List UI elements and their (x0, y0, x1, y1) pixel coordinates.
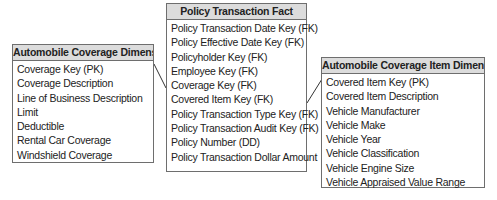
table-field: Limit (17, 105, 153, 119)
table-field: Vehicle Manufacturer (326, 104, 484, 118)
table-field: Covered Item Key (FK) (171, 92, 306, 106)
table-automobile-coverage-dimension: Automobile Coverage Dimension Coverage K… (12, 44, 154, 163)
link-coverage-key (154, 64, 166, 88)
table-field: Policy Transaction Dollar Amount (171, 150, 306, 164)
table-title: Policy Transaction Fact (167, 4, 306, 20)
table-field: Coverage Key (FK) (171, 78, 306, 92)
table-field: Coverage Key (PK) (17, 62, 153, 76)
table-field: Covered Item Description (326, 89, 484, 103)
table-field: Covered Item Key (PK) (326, 75, 484, 89)
table-field: Policy Transaction Date Key (FK) (171, 21, 306, 35)
table-field: Policy Transaction Audit Key (FK) (171, 121, 306, 135)
table-field: Vehicle Appraised Value Range (326, 175, 484, 189)
table-field: Policy Transaction Type Key (FK) (171, 107, 306, 121)
table-field: Windshield Coverage (17, 148, 153, 162)
table-field: Rental Car Coverage (17, 133, 153, 147)
table-field: Policy Number (DD) (171, 135, 306, 149)
table-field: Vehicle Year (326, 132, 484, 146)
table-field: Vehicle Classification (326, 146, 484, 160)
link-covered-item-key (307, 79, 322, 103)
table-field: Deductible (17, 119, 153, 133)
table-title: Automobile Coverage Item Dimension (322, 58, 484, 74)
table-field: Line of Business Description (17, 91, 153, 105)
table-automobile-coverage-item-dimension: Automobile Coverage Item Dimension Cover… (321, 57, 485, 188)
table-title: Automobile Coverage Dimension (13, 45, 153, 61)
table-policy-transaction-fact: Policy Transaction Fact Policy Transacti… (166, 3, 307, 172)
table-field: Policy Effective Date Key (FK) (171, 35, 306, 49)
table-field: Coverage Description (17, 76, 153, 90)
table-field: Vehicle Make (326, 118, 484, 132)
table-field: Vehicle Engine Size (326, 161, 484, 175)
table-field: Employee Key (FK) (171, 64, 306, 78)
table-field: Policyholder Key (FK) (171, 50, 306, 64)
